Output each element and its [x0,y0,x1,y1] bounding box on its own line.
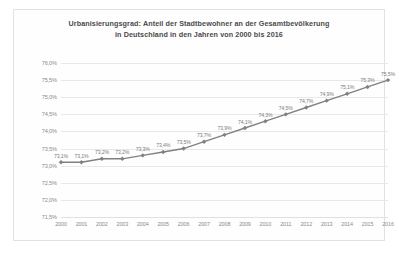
data-point-label: 73,1% [74,153,88,159]
data-point-marker [365,85,369,89]
y-axis-tick-label: 74,0% [42,128,57,134]
data-point-label: 73,2% [115,149,129,155]
y-axis-tick-label: 72,0% [42,197,57,203]
data-point-marker [202,140,206,144]
data-point-marker [59,160,63,164]
x-axis-ticks: 2000200120022003200420052006200720082009… [61,221,388,233]
data-point-label: 74,3% [258,112,272,118]
series-polyline [61,80,388,162]
data-point-marker [161,150,165,154]
y-axis-tick-label: 73,5% [42,146,57,152]
data-point-label: 73,1% [54,153,68,159]
data-point-marker [79,160,83,164]
data-point-label: 73,4% [156,142,170,148]
data-point-marker [243,126,247,130]
x-axis-tick-label: 2005 [157,221,169,227]
data-point-marker [324,98,328,102]
data-point-label: 73,9% [218,125,232,131]
data-point-marker [263,119,267,123]
data-point-label: 75,1% [340,84,354,90]
data-point-marker [100,157,104,161]
data-point-label: 74,1% [238,119,252,125]
data-point-label: 74,7% [299,98,313,104]
data-point-label: 73,3% [136,146,150,152]
x-axis-tick-label: 2013 [321,221,333,227]
series-line [61,63,388,217]
plot-area: 76,0%75,5%75,0%74,5%74,0%73,5%73,0%72,5%… [61,63,388,217]
x-axis-tick-label: 2000 [55,221,67,227]
data-point-marker [120,157,124,161]
data-point-label: 73,5% [177,139,191,145]
x-axis-tick-label: 2014 [341,221,353,227]
x-axis-tick-label: 2016 [382,221,394,227]
x-axis-tick-label: 2011 [280,221,291,227]
y-axis-tick-label: 72,5% [42,180,57,186]
x-axis-tick-label: 2003 [117,221,129,227]
chart-title: Urbanisierungsgrad: Anteil der Stadtbewo… [14,19,384,40]
y-axis-tick-label: 75,0% [42,94,57,100]
data-point-label: 75,3% [361,77,375,83]
data-point-label: 73,2% [95,149,109,155]
data-point-label: 74,9% [320,91,334,97]
chart-frame: Urbanisierungsgrad: Anteil der Stadtbewo… [13,9,385,241]
x-axis-tick-label: 2015 [362,221,374,227]
data-point-marker [181,146,185,150]
x-axis-line [61,217,388,218]
data-point-label: 75,5% [381,71,395,77]
x-axis-tick-label: 2009 [239,221,251,227]
data-point-marker [304,105,308,109]
chart-title-line-2: in Deutschland in den Jahren von 2000 bi… [14,30,384,41]
x-axis-tick-label: 2008 [219,221,231,227]
x-axis-tick-label: 2012 [300,221,312,227]
data-point-marker [345,92,349,96]
x-axis-tick-label: 2004 [137,221,149,227]
data-point-marker [284,112,288,116]
data-point-label: 74,5% [279,105,293,111]
y-axis-tick-label: 75,5% [42,77,57,83]
x-axis-tick-label: 2002 [96,221,108,227]
data-point-marker [386,78,390,82]
x-axis-tick-label: 2006 [178,221,190,227]
chart-title-line-1: Urbanisierungsgrad: Anteil der Stadtbewo… [14,19,384,30]
data-point-marker [141,153,145,157]
y-axis-tick-label: 73,0% [42,163,57,169]
x-axis-tick-label: 2010 [260,221,272,227]
x-axis-tick-label: 2007 [198,221,210,227]
y-axis-tick-label: 71,5% [42,214,57,220]
y-axis-tick-label: 76,0% [42,60,57,66]
y-axis-tick-label: 74,5% [42,111,57,117]
data-point-marker [222,133,226,137]
data-point-label: 73,7% [197,132,211,138]
x-axis-tick-label: 2001 [76,221,88,227]
